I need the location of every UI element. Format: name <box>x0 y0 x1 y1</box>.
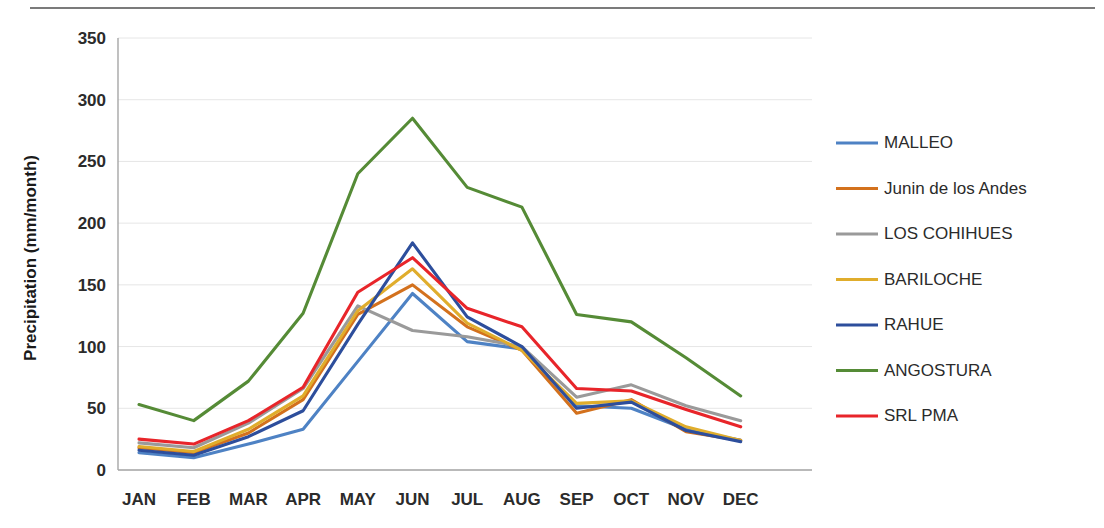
series-line-bariloche <box>139 269 741 452</box>
y-axis-tick-label: 300 <box>78 91 106 110</box>
x-axis-tick-label: FEB <box>177 490 211 509</box>
series-line-rahue <box>139 243 741 455</box>
gridlines-group <box>118 38 812 470</box>
y-axis-tick-label: 100 <box>78 338 106 357</box>
x-axis-tick-label: OCT <box>613 490 650 509</box>
x-axis-tick-label: APR <box>285 490 321 509</box>
x-axis-tick-label: JAN <box>122 490 156 509</box>
x-axis-tick-label: DEC <box>723 490 759 509</box>
legend-label-los-cohihues: LOS COHIHUES <box>884 224 1012 243</box>
y-axis-tick-label: 50 <box>87 399 106 418</box>
figure-root: 050100150200250300350 JANFEBMARAPRMAYJUN… <box>0 0 1104 528</box>
series-line-los-cohihues <box>139 306 741 448</box>
legend-label-malleo: MALLEO <box>884 133 953 152</box>
x-axis-tick-label: SEP <box>560 490 594 509</box>
x-axis-tick-label: JUL <box>451 490 483 509</box>
x-axis-tick-label: AUG <box>503 490 541 509</box>
legend-label-junin-de-los-andes: Junin de los Andes <box>884 179 1027 198</box>
legend-label-bariloche: BARILOCHE <box>884 270 982 289</box>
series-lines-group <box>139 118 741 457</box>
y-axis-tick-label: 250 <box>78 152 106 171</box>
y-axis-tick-label: 150 <box>78 276 106 295</box>
x-axis-tick-label: NOV <box>668 490 706 509</box>
y-axis-tick-label: 0 <box>97 461 106 480</box>
x-axis-tick-labels-group: JANFEBMARAPRMAYJUNJULAUGSEPOCTNOVDEC <box>122 490 759 509</box>
x-axis-tick-label: MAR <box>229 490 268 509</box>
series-line-angostura <box>139 118 741 420</box>
y-axis-tick-label: 200 <box>78 214 106 233</box>
y-axis-tick-label: 350 <box>78 29 106 48</box>
y-axis-title: Precipitation (mm/month) <box>21 155 40 361</box>
legend-label-srl-pma: SRL PMA <box>884 406 959 425</box>
legend-label-angostura: ANGOSTURA <box>884 361 992 380</box>
x-axis-tick-label: JUN <box>395 490 429 509</box>
chart-legend: MALLEOJunin de los AndesLOS COHIHUESBARI… <box>836 133 1027 425</box>
precipitation-line-chart: 050100150200250300350 JANFEBMARAPRMAYJUN… <box>0 0 1104 528</box>
legend-label-rahue: RAHUE <box>884 315 944 334</box>
y-axis-tick-labels-group: 050100150200250300350 <box>78 29 106 480</box>
x-axis-tick-label: MAY <box>340 490 377 509</box>
